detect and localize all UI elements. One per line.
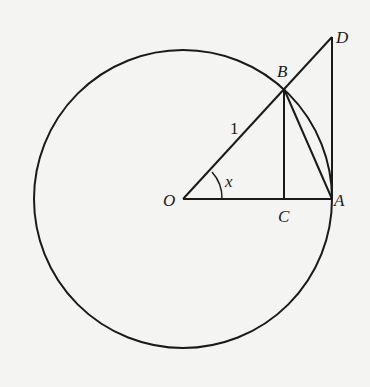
angle-arc (212, 172, 222, 199)
label-radius: 1 (230, 119, 239, 138)
label-b: B (277, 62, 288, 81)
label-c: C (278, 207, 290, 226)
label-o: O (163, 191, 175, 210)
segment-od (183, 37, 332, 199)
label-angle: x (224, 172, 233, 191)
label-a: A (333, 191, 345, 210)
unit-circle-diagram: O A B C D 1 x (0, 0, 370, 387)
label-d: D (335, 28, 349, 47)
segment-ba (284, 89, 332, 199)
